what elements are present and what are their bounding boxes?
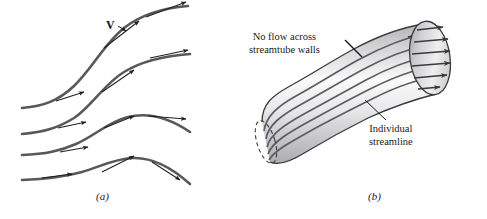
no-flow-line-1: No flow across xyxy=(249,31,320,44)
panel-b-caption: (b) xyxy=(368,190,381,202)
velocity-arrow xyxy=(104,116,134,128)
streamline-4 xyxy=(22,156,190,184)
individual-streamline-annotation: Individual streamline xyxy=(369,123,413,148)
no-flow-line-2: streamtube walls xyxy=(249,44,320,57)
panel-a-caption: (a) xyxy=(96,190,109,202)
individual-line-2: streamline xyxy=(369,136,413,149)
velocity-arrow xyxy=(102,70,134,92)
velocity-arrow xyxy=(152,162,180,180)
streamline-2 xyxy=(22,50,190,134)
no-flow-annotation: No flow across streamtube walls xyxy=(249,31,320,56)
figure-svg xyxy=(0,0,487,219)
velocity-vector-label: V xyxy=(106,18,115,33)
streamline-3 xyxy=(22,115,190,155)
velocity-arrow xyxy=(146,2,186,17)
figure-root: No flow across streamtube walls Individu… xyxy=(0,0,487,219)
individual-line-1: Individual xyxy=(369,123,413,136)
